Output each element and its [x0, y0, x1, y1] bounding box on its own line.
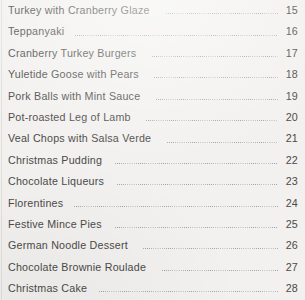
- toc-entry-page-number: 28: [284, 278, 298, 299]
- toc-entry-title: Yuletide Goose with Pears: [8, 64, 139, 85]
- toc-entry-title: Festive Mince Pies: [8, 214, 102, 235]
- toc-dot-leader: [166, 13, 278, 14]
- toc-entry[interactable]: Yuletide Goose with Pears18: [0, 64, 305, 85]
- toc-entry[interactable]: Christmas Cake28: [0, 278, 305, 299]
- toc-entry[interactable]: Chocolate Liqueurs23: [0, 171, 305, 192]
- toc-dot-leader: [99, 291, 278, 292]
- toc-entry[interactable]: Cranberry Turkey Burgers17: [0, 43, 305, 64]
- toc-entry[interactable]: Florentines24: [0, 193, 305, 214]
- toc-entry-title: Christmas Pudding: [8, 150, 102, 171]
- toc-entry-page-number: 21: [284, 128, 298, 149]
- toc-dot-leader: [143, 248, 278, 249]
- toc-entry-page-number: 24: [284, 193, 298, 214]
- toc-entry-page-number: 19: [284, 86, 298, 107]
- toc-entry-title: Cranberry Turkey Burgers: [8, 43, 136, 64]
- toc-dot-leader: [115, 163, 278, 164]
- toc-entry-title: Veal Chops with Salsa Verde: [8, 128, 151, 149]
- toc-dot-leader: [74, 206, 278, 207]
- toc-entry[interactable]: Pot-roasted Leg of Lamb20: [0, 107, 305, 128]
- toc-dot-leader: [162, 270, 278, 271]
- toc-entry-page-number: 26: [284, 235, 298, 256]
- toc-dot-leader: [152, 56, 278, 57]
- toc-entry[interactable]: German Noodle Dessert26: [0, 235, 305, 256]
- toc-entry-title: Pot-roasted Leg of Lamb: [8, 107, 131, 128]
- toc-entry-title: German Noodle Dessert: [8, 235, 128, 256]
- toc-dot-leader: [115, 227, 278, 228]
- toc-entry-title: Chocolate Liqueurs: [8, 171, 104, 192]
- toc-entry-page-number: 22: [284, 150, 298, 171]
- toc-entry-page-number: 20: [284, 107, 298, 128]
- toc-entry[interactable]: Teppanyaki16: [0, 21, 305, 42]
- toc-dot-leader: [167, 142, 278, 143]
- table-of-contents-list: Turkey with Cranberry Glaze15Teppanyaki1…: [0, 0, 305, 299]
- toc-entry[interactable]: Festive Mince Pies25: [0, 214, 305, 235]
- toc-entry-page-number: 27: [284, 257, 298, 278]
- toc-dot-leader: [156, 99, 278, 100]
- toc-entry-title: Pork Balls with Mint Sauce: [8, 86, 140, 107]
- toc-entry[interactable]: Chocolate Brownie Roulade27: [0, 257, 305, 278]
- toc-entry-page-number: 17: [284, 43, 298, 64]
- toc-entry-page-number: 15: [284, 0, 298, 21]
- toc-dot-leader: [146, 120, 278, 121]
- toc-entry-title: Teppanyaki: [8, 21, 64, 42]
- toc-entry-title: Turkey with Cranberry Glaze: [8, 0, 150, 21]
- toc-entry-page-number: 16: [284, 21, 298, 42]
- toc-entry[interactable]: Christmas Pudding22: [0, 150, 305, 171]
- toc-dot-leader: [154, 77, 278, 78]
- toc-entry-title: Christmas Cake: [8, 278, 87, 299]
- toc-dot-leader: [117, 184, 278, 185]
- toc-entry-title: Florentines: [8, 193, 63, 214]
- toc-entry[interactable]: Turkey with Cranberry Glaze15: [0, 0, 305, 21]
- toc-entry-page-number: 18: [284, 64, 298, 85]
- toc-entry-title: Chocolate Brownie Roulade: [8, 257, 146, 278]
- toc-entry[interactable]: Veal Chops with Salsa Verde21: [0, 128, 305, 149]
- toc-dot-leader: [75, 35, 278, 36]
- toc-entry[interactable]: Pork Balls with Mint Sauce19: [0, 86, 305, 107]
- page-canvas: Turkey with Cranberry Glaze15Teppanyaki1…: [0, 0, 305, 300]
- toc-entry-page-number: 25: [284, 214, 298, 235]
- toc-entry-page-number: 23: [284, 171, 298, 192]
